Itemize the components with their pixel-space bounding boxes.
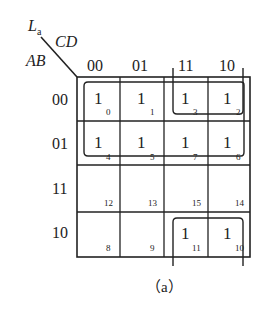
- col-header-01: 01: [132, 57, 148, 75]
- cell-index-8: 8: [106, 243, 111, 253]
- row-header-11: 11: [52, 180, 67, 198]
- cell-value-3: 1: [181, 89, 190, 109]
- cell-value-4: 1: [94, 133, 103, 153]
- function-label: La: [28, 17, 41, 37]
- row-header-00: 00: [52, 91, 68, 109]
- kmap-lines: [0, 0, 275, 322]
- cell-value-6: 1: [223, 133, 232, 153]
- cell-index-3: 3: [193, 107, 198, 117]
- function-label-text: L: [28, 17, 37, 34]
- figure-caption: （a）: [146, 275, 183, 296]
- cell-value-7: 1: [181, 133, 190, 153]
- cell-index-10: 10: [235, 243, 244, 253]
- cell-index-11: 11: [192, 243, 201, 253]
- cell-index-12: 12: [104, 198, 113, 208]
- col-var-label: CD: [55, 33, 77, 51]
- cell-index-1: 1: [150, 107, 155, 117]
- cell-index-9: 9: [150, 243, 155, 253]
- cell-index-2: 2: [236, 107, 241, 117]
- cell-index-4: 4: [106, 152, 111, 162]
- col-header-11: 11: [178, 57, 193, 75]
- cell-value-1: 1: [137, 89, 146, 109]
- cell-value-11: 1: [181, 224, 190, 244]
- cell-index-7: 7: [193, 152, 198, 162]
- cell-index-5: 5: [150, 152, 155, 162]
- cell-value-5: 1: [137, 133, 146, 153]
- function-label-subscript: a: [37, 26, 41, 37]
- cell-index-15: 15: [192, 198, 201, 208]
- cell-value-10: 1: [223, 224, 232, 244]
- col-header-10: 10: [219, 57, 235, 75]
- cell-index-0: 0: [106, 107, 111, 117]
- row-var-label: AB: [26, 52, 46, 70]
- row-header-01: 01: [52, 135, 68, 153]
- row-header-10: 10: [52, 224, 68, 242]
- cell-index-14: 14: [235, 198, 244, 208]
- cell-index-13: 13: [148, 198, 157, 208]
- cell-value-2: 1: [223, 89, 232, 109]
- cell-value-0: 1: [94, 89, 103, 109]
- col-header-00: 00: [87, 57, 103, 75]
- cell-index-6: 6: [236, 152, 241, 162]
